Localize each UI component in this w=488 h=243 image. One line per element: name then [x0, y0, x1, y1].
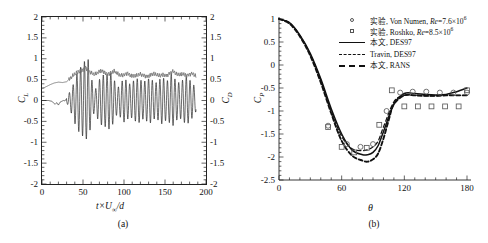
- panel-a-xtick-label: 50: [68, 188, 98, 197]
- panel-b-roshko-marker: [456, 104, 461, 109]
- dashed-line-icon: [337, 54, 367, 55]
- panel-b-von-numen-marker: [398, 90, 403, 95]
- panel-a-right-ytick-label: -1: [210, 138, 242, 147]
- panel-a-xaxis-label: t×U∞/d: [96, 201, 124, 213]
- panel-b-caption: (b): [344, 219, 404, 229]
- panel-a-left-axis-label: CL: [17, 87, 29, 109]
- panel-a-right-ytick-label: 1.5: [210, 33, 242, 42]
- legend-item-1: 实验, Roshko, Re=8.5×106: [337, 26, 466, 38]
- panel-a: 21.510.50-0.5-1-1.5-2 21.510.50-0.5-1-1.…: [0, 0, 244, 243]
- panel-b-yaxis-label: CP: [253, 87, 265, 109]
- panel-b-xaxis-label: θ: [368, 202, 373, 213]
- legend-item-label: 本文, RANS: [367, 60, 410, 72]
- bold-dashed-line-icon: [337, 65, 367, 67]
- panel-b-roshko-marker: [389, 88, 394, 93]
- panel-b-von-numen-marker: [424, 89, 429, 94]
- panel-b-ytick-label: -1.5: [244, 130, 275, 139]
- panel-a-ytick-label: 1: [6, 54, 38, 63]
- legend-item-3: Travin, DES97: [337, 49, 466, 61]
- panel-a-right-ytick-label: 1: [210, 54, 242, 63]
- panel-b-roshko-marker: [377, 122, 382, 127]
- panel-b-ytick-label: 0: [244, 61, 275, 70]
- legend-item-label: Travin, DES97: [367, 49, 416, 61]
- panel-a-cd-curve: [42, 66, 196, 89]
- square-marker-icon: [337, 29, 367, 33]
- panel-b-xtick-label: 60: [327, 184, 357, 193]
- panel-a-ytick-label: 1.5: [6, 33, 38, 42]
- panel-a-right-ytick-label: -1.5: [210, 159, 242, 168]
- panel-b-xtick-label: 120: [389, 184, 419, 193]
- panel-a-right-ytick-label: 0.5: [210, 75, 242, 84]
- circle-marker-icon: [337, 18, 367, 22]
- panel-a-xtick-label: 0: [27, 188, 57, 197]
- legend-item-2: 本文, DES97: [337, 37, 466, 49]
- panel-b-von-numen-marker: [371, 142, 376, 147]
- panel-b-ytick-label: -2: [244, 153, 275, 162]
- legend-item-4: 本文, RANS: [337, 60, 466, 72]
- panel-b-legend: 实验, Von Numen, Re=7.6×106实验, Roshko, Re=…: [337, 14, 466, 72]
- panel-b-roshko-marker: [429, 104, 434, 109]
- panel-a-xtick-label: 100: [109, 188, 139, 197]
- legend-item-label: 本文, DES97: [367, 37, 412, 49]
- panel-b: 10.50-0.5-1-1.5-2-2.5 060120180 CP θ (b)…: [244, 0, 488, 243]
- panel-a-ytick-label: -0.5: [6, 117, 38, 126]
- panel-b-roshko-marker: [443, 104, 448, 109]
- figure-root: 21.510.50-0.5-1-1.5-2 21.510.50-0.5-1-1.…: [0, 0, 488, 243]
- panel-a-ytick-label: 2: [6, 13, 38, 22]
- solid-line-icon: [337, 42, 367, 43]
- panel-a-xtick-label: 150: [150, 188, 180, 197]
- panel-a-curves: [42, 60, 196, 139]
- panel-a-right-ytick-label: 2: [210, 13, 242, 22]
- panel-a-caption: (a): [93, 219, 153, 229]
- panel-a-ytick-label: 0.5: [6, 75, 38, 84]
- panel-a-ytick-label: -1: [6, 138, 38, 147]
- panel-a-right-axis-label: CD: [221, 87, 233, 109]
- panel-a-ytick-label: -1.5: [6, 159, 38, 168]
- panel-b-roshko-marker: [402, 104, 407, 109]
- panel-b-roshko-marker: [416, 104, 421, 109]
- panel-a-right-ytick-label: -0.5: [210, 117, 242, 126]
- panel-b-von-numen-marker: [384, 109, 389, 114]
- panel-b-von-numen-marker: [358, 144, 363, 149]
- panel-b-ytick-label: 1: [244, 15, 275, 24]
- panel-b-xtick-label: 0: [264, 184, 294, 193]
- panel-b-ytick-label: 0.5: [244, 38, 275, 47]
- panel-b-xtick-label: 180: [452, 184, 482, 193]
- panel-b-von-numen-marker: [326, 123, 331, 128]
- panel-a-xtick-label: 200: [191, 188, 221, 197]
